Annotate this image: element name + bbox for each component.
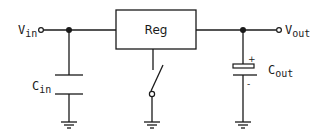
circuit-diagram: Vin Reg Vout Cin (0, 0, 329, 139)
vin-label: Vin (18, 23, 37, 39)
ground-icon (61, 122, 77, 128)
switch-icon (149, 49, 163, 122)
minus-sign: - (247, 79, 250, 89)
output-terminal-icon (277, 28, 282, 33)
vout-label: Vout (285, 23, 310, 39)
plus-sign: + (248, 54, 256, 64)
cout-label: Cout (268, 63, 293, 79)
input-capacitor-icon (55, 30, 83, 122)
cin-label: Cin (32, 79, 51, 95)
output-capacitor-icon: + - (233, 30, 257, 122)
ground-icon (235, 122, 251, 128)
input-terminal-icon (39, 28, 44, 33)
ground-icon (144, 122, 160, 128)
regulator-block: Reg (116, 10, 196, 49)
regulator-label: Reg (145, 23, 168, 37)
